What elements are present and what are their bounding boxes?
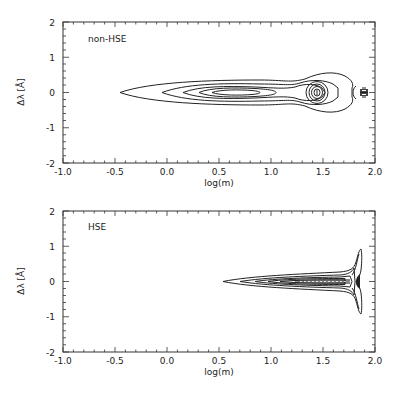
x-tick-labels: -1.0 -0.5 0.0 0.5 1.0 1.5 2.0: [54, 167, 382, 177]
svg-text:1.0: 1.0: [264, 167, 279, 177]
panel-non-hse: non-HSE 2 1 0 -1 -2 Δλ [Å] -1.0 -0.5 0.0…: [15, 18, 382, 188]
svg-text:0.0: 0.0: [160, 356, 175, 366]
svg-text:2: 2: [49, 18, 55, 28]
contours-non-hse: [120, 73, 368, 112]
svg-text:2: 2: [49, 207, 55, 217]
x-axis-label: log(m): [204, 178, 234, 188]
svg-text:0: 0: [49, 277, 55, 287]
svg-text:-0.5: -0.5: [106, 167, 124, 177]
svg-text:-0.5: -0.5: [106, 356, 124, 366]
x-tick-labels: -1.0 -0.5 0.0 0.5 1.0 1.5 2.0: [54, 356, 382, 366]
svg-text:1: 1: [49, 242, 55, 252]
svg-text:1: 1: [49, 53, 55, 63]
y-axis-label: Δλ [Å]: [15, 78, 26, 106]
figure: non-HSE 2 1 0 -1 -2 Δλ [Å] -1.0 -0.5 0.0…: [0, 0, 405, 398]
svg-text:0.5: 0.5: [212, 356, 226, 366]
contours-hse: [223, 249, 362, 314]
panel-label: non-HSE: [88, 34, 127, 44]
svg-text:-1: -1: [46, 123, 55, 133]
svg-text:1.5: 1.5: [316, 167, 330, 177]
y-tick-labels: 2 1 0 -1 -2: [46, 207, 55, 358]
panel-label: HSE: [88, 222, 106, 232]
svg-text:1.0: 1.0: [264, 356, 279, 366]
svg-text:-1.0: -1.0: [54, 356, 72, 366]
svg-text:2.0: 2.0: [368, 356, 383, 366]
svg-text:-1: -1: [46, 312, 55, 322]
svg-text:0.0: 0.0: [160, 167, 175, 177]
svg-text:2.0: 2.0: [368, 167, 383, 177]
svg-text:-1.0: -1.0: [54, 167, 72, 177]
x-axis-label: log(m): [204, 367, 234, 377]
svg-text:0.5: 0.5: [212, 167, 226, 177]
y-tick-labels: 2 1 0 -1 -2: [46, 18, 55, 169]
svg-text:0: 0: [49, 88, 55, 98]
y-axis-label: Δλ [Å]: [15, 267, 26, 295]
svg-text:1.5: 1.5: [316, 356, 330, 366]
panel-hse: HSE 2 1 0 -1 -2 Δλ [Å] -1.0 -0.5 0.0 0.5…: [15, 207, 382, 377]
